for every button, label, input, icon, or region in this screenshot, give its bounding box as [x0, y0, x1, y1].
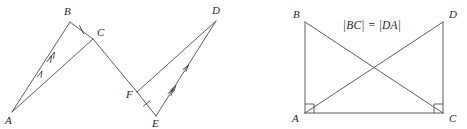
geometry-figure: A B C F E D |BC| = |DA| B D A — [0, 0, 467, 129]
vertex-label-d: D — [211, 4, 220, 16]
rect-vertex-label-d: D — [448, 8, 457, 20]
left-diagram: A B C F E D — [4, 4, 220, 129]
rect-vertex-label-c: C — [449, 112, 457, 124]
vertex-label-c: C — [97, 26, 105, 38]
chevron-double-ab — [47, 52, 55, 63]
vertex-label-e: E — [151, 117, 159, 129]
vertex-label-f: F — [125, 88, 133, 100]
rect-vertex-label-b: B — [293, 8, 300, 20]
figure-canvas: A B C F E D |BC| = |DA| B D A — [0, 0, 467, 129]
rect-vertex-label-a: A — [291, 112, 299, 124]
chevron-double-de — [168, 86, 176, 96]
vertex-label-b: B — [64, 5, 71, 17]
vertex-label-a: A — [4, 114, 12, 126]
segment-cf — [93, 39, 137, 92]
equation-label: |BC| = |DA| — [343, 19, 401, 32]
segment-de — [156, 21, 216, 116]
right-diagram: |BC| = |DA| B D A C — [291, 8, 457, 124]
segment-fd — [137, 21, 216, 92]
